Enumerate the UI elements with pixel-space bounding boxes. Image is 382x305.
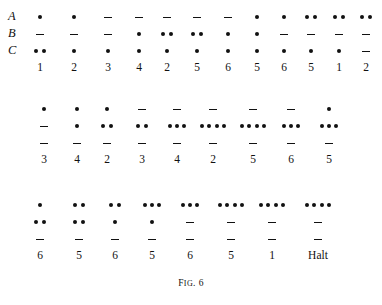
dot-group xyxy=(179,196,201,213)
dot-icon xyxy=(188,203,192,207)
dot-icon xyxy=(101,124,105,128)
dot-icon xyxy=(73,203,77,207)
dot-icon xyxy=(320,124,324,128)
dot-group xyxy=(304,8,318,25)
dash-mark xyxy=(307,25,315,42)
dot-icon xyxy=(150,203,154,207)
dash-icon xyxy=(40,126,48,127)
dot-group xyxy=(104,42,111,59)
cell-b-7 xyxy=(252,213,292,230)
dot-group xyxy=(108,196,122,213)
cell-c-7 xyxy=(233,134,273,151)
dot-icon xyxy=(320,203,324,207)
dot-icon xyxy=(161,32,165,36)
instruction-number-row: 6565651Halt xyxy=(0,247,382,263)
dot-icon xyxy=(165,49,169,53)
dot-group xyxy=(160,25,174,42)
dot-group xyxy=(141,196,163,213)
dot-icon xyxy=(34,49,38,53)
dot-icon xyxy=(289,124,293,128)
dash-icon xyxy=(268,239,276,240)
instruction-number: 2 xyxy=(344,59,382,75)
dash-mark xyxy=(70,25,78,42)
dash-icon xyxy=(104,34,112,35)
dash-mark xyxy=(209,100,217,117)
dot-group xyxy=(33,42,47,59)
dot-icon xyxy=(199,32,203,36)
cell-b-6 xyxy=(193,117,233,134)
dash-icon xyxy=(280,34,288,35)
dot-icon xyxy=(109,203,113,207)
dot-icon xyxy=(282,124,286,128)
dash-icon xyxy=(209,143,217,144)
dash-icon xyxy=(70,34,78,35)
cell-c-7 xyxy=(252,230,292,247)
cell-a-7 xyxy=(252,196,292,213)
dash-mark xyxy=(325,134,333,151)
dot-group xyxy=(217,196,246,213)
register-row-a: A xyxy=(0,8,382,25)
dot-icon xyxy=(137,49,141,53)
instruction-number-row: 342342565 xyxy=(0,151,382,167)
dot-group xyxy=(280,117,302,134)
dash-mark xyxy=(314,213,322,230)
cell-b-6 xyxy=(211,213,251,230)
instruction-number: 5 xyxy=(307,151,351,167)
dot-group xyxy=(280,42,287,59)
dash-mark xyxy=(186,230,194,247)
dot-icon xyxy=(137,32,141,36)
dot-icon xyxy=(259,203,263,207)
cell-a-2 xyxy=(59,196,99,213)
figure-caption: FIG. 6 xyxy=(0,278,382,288)
dash-icon xyxy=(138,143,146,144)
register-row-c xyxy=(0,134,382,151)
trace-block-3: 6565651Halt xyxy=(0,196,382,263)
dash-icon xyxy=(314,239,322,240)
dash-mark xyxy=(163,8,171,25)
dash-icon xyxy=(287,143,295,144)
dash-mark xyxy=(104,8,112,25)
dash-icon xyxy=(227,239,235,240)
dot-group xyxy=(318,117,340,134)
cell-c-5 xyxy=(157,134,197,151)
dot-group xyxy=(40,100,47,117)
trace-block-2: 342342565 xyxy=(0,100,382,167)
dash-icon xyxy=(75,239,83,240)
dash-mark xyxy=(186,213,194,230)
dash-icon xyxy=(36,34,44,35)
dot-icon xyxy=(117,203,121,207)
dash-icon xyxy=(104,17,112,18)
dot-icon xyxy=(42,220,46,224)
dot-icon xyxy=(136,124,140,128)
dash-icon xyxy=(307,34,315,35)
dot-group xyxy=(253,25,260,42)
dash-mark xyxy=(314,230,322,247)
caption-smallcaps: IG xyxy=(184,279,193,288)
dot-icon xyxy=(195,203,199,207)
cell-a-12 xyxy=(346,8,382,25)
cell-b-5 xyxy=(157,117,197,134)
dot-group xyxy=(111,213,118,230)
dot-icon xyxy=(113,220,117,224)
dot-group xyxy=(70,8,77,25)
dot-group xyxy=(359,8,373,25)
dash-mark xyxy=(268,213,276,230)
register-row-b xyxy=(0,213,382,230)
dash-icon xyxy=(186,222,194,223)
dot-icon xyxy=(255,49,259,53)
cell-c-5 xyxy=(170,230,210,247)
dash-mark xyxy=(40,117,48,134)
register-row-c xyxy=(0,230,382,247)
dash-mark xyxy=(75,230,83,247)
dash-mark xyxy=(40,134,48,151)
dash-mark xyxy=(268,230,276,247)
register-row-c: C xyxy=(0,42,382,59)
cell-b-4 xyxy=(132,213,172,230)
dot-group xyxy=(73,117,80,134)
dot-group xyxy=(70,42,77,59)
dash-mark xyxy=(111,230,119,247)
dot-group xyxy=(135,25,142,42)
dot-group xyxy=(73,100,80,117)
dot-icon xyxy=(312,203,316,207)
cell-a-3 xyxy=(95,196,135,213)
